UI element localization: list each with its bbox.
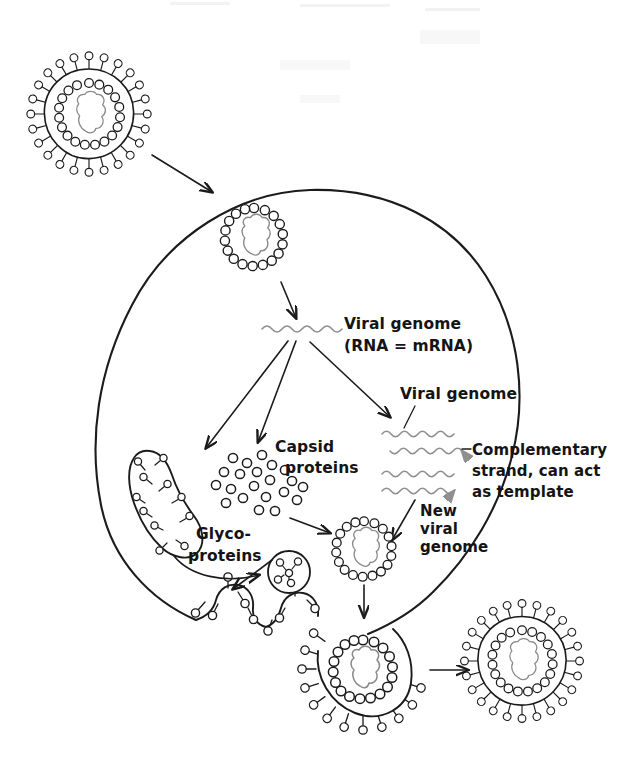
strand-new-viral-genome <box>382 488 454 494</box>
label-viral-genome-right: Viral genome <box>400 385 517 403</box>
uncoating-arrow <box>281 282 296 318</box>
label-new-viral-line2: viral <box>420 520 458 538</box>
released-virion <box>461 600 584 723</box>
assembly-arrow <box>290 518 330 533</box>
label-complementary-line1: Complementary <box>472 441 607 459</box>
er-organelle <box>129 451 202 558</box>
viral-genome-leader-line <box>404 406 415 428</box>
entering-virion <box>27 52 151 176</box>
label-complementary-line3: as template <box>472 483 574 501</box>
diagram-canvas: Viral genome (RNA = mRNA) Viral genome C… <box>0 0 617 764</box>
viral-replication-diagram: Viral genome (RNA = mRNA) Viral genome C… <box>0 0 617 764</box>
label-glyco-line1: Glyco- <box>196 525 251 543</box>
transport-vesicle <box>268 551 310 593</box>
assembled-nucleocapsid <box>332 517 396 581</box>
strand-template <box>382 471 454 477</box>
label-capsid-line1: Capsid <box>275 438 334 456</box>
scan-artifacts <box>170 2 480 103</box>
label-capsid-line2: proteins <box>285 459 359 477</box>
label-new-viral-line1: New <box>420 502 457 520</box>
entry-arrow <box>152 155 212 192</box>
label-complementary-line2: strand, can act <box>472 462 601 480</box>
label-new-viral-line3: genome <box>420 538 488 556</box>
label-viral-genome-main-line2: (RNA = mRNA) <box>344 337 473 355</box>
strand-complementary <box>390 448 462 454</box>
internalized-nucleocapsid <box>220 203 287 270</box>
label-glyco-line2: proteins <box>188 547 262 565</box>
budding-virion <box>298 627 427 734</box>
strand-viral-genome <box>382 431 454 437</box>
new-genome-to-capsid-arrow <box>392 500 415 540</box>
viral-genome-strand <box>262 326 342 332</box>
label-viral-genome-main-line1: Viral genome <box>344 315 461 333</box>
